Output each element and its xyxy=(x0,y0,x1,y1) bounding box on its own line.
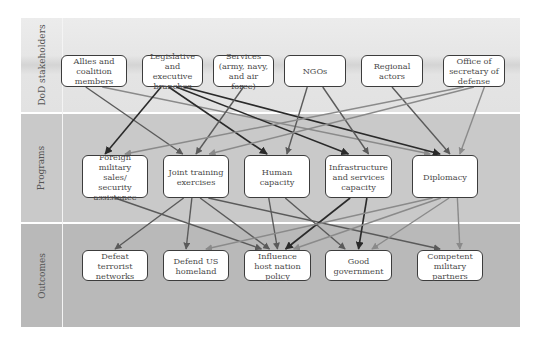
node-regional-actors: Regional actors xyxy=(361,55,423,87)
node-allies-and-coalition-members: Allies and coalition members xyxy=(61,55,127,87)
node-services: Services (army, navy, and air force) xyxy=(213,55,274,87)
edge-diplo-to-goodgov xyxy=(372,198,449,249)
edge-diplo-to-competent xyxy=(457,198,460,249)
edge-legis-to-human xyxy=(169,87,267,154)
edge-legis-to-infra xyxy=(176,87,348,154)
node-defend-us-homeland: Defend US homeland xyxy=(163,250,229,281)
edge-osd-to-fms xyxy=(125,87,464,154)
edge-allies-to-joint xyxy=(86,87,183,154)
edge-allies-to-diplo xyxy=(102,87,430,154)
edge-osd-to-joint xyxy=(209,87,474,154)
node-competent-military-partners: Competent military partners xyxy=(417,250,483,281)
edge-joint-to-defeat xyxy=(115,198,184,249)
node-infrastructure-and-services-capacity: Infrastructure and services capacity xyxy=(325,155,392,198)
edge-joint-to-influence xyxy=(200,198,269,249)
node-influence-host-nation-policy: Influence host nation policy xyxy=(244,250,311,281)
node-human-capacity: Human capacity xyxy=(244,155,310,198)
node-office-of-secretary-of-defense: Office of secretary of defense xyxy=(443,55,505,87)
node-ngos: NGOs xyxy=(284,55,346,87)
node-defeat-terrorist-networks: Defeat terrorist networks xyxy=(82,250,148,281)
node-legislative-and-executive-branches: Legislative and executive branches xyxy=(142,55,203,87)
node-foreign-military-sales: Foreign military sales/ security assista… xyxy=(82,155,148,198)
edge-osd-to-diplo xyxy=(460,87,484,154)
edge-joint-to-competent xyxy=(208,198,440,249)
edge-legis-to-diplo xyxy=(184,87,440,154)
edge-ngos-to-infra xyxy=(323,87,369,154)
edge-legis-to-fms xyxy=(105,87,161,154)
node-diplomacy: Diplomacy xyxy=(412,155,478,198)
edge-human-to-influence xyxy=(269,198,278,249)
node-good-government: Good government xyxy=(325,250,392,281)
node-joint-training-exercises: Joint training exercises xyxy=(163,155,229,198)
